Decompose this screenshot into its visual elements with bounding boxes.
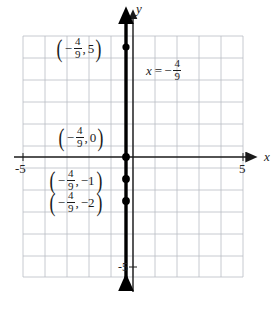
equation-relation: =	[154, 64, 163, 77]
point-label-neg2: ( − 4 9 , −2 )	[48, 190, 103, 214]
point-0-numerator: 4	[76, 125, 84, 136]
point-neg1-numerator: 4	[67, 168, 75, 179]
y-axis-label: y	[136, 2, 142, 15]
point-5-numerator: 4	[74, 36, 82, 47]
point-5-fraction: 4 9	[74, 36, 82, 60]
point-label-5: ( − 4 9 , 5 )	[55, 36, 103, 60]
close-paren-icon: )	[96, 38, 102, 59]
point-0-denominator: 9	[76, 138, 84, 149]
open-paren-icon: (	[58, 127, 64, 148]
equation-lhs: x	[146, 64, 154, 77]
equation-fraction: 4 9	[173, 58, 181, 82]
equation-numerator: 4	[173, 58, 181, 69]
equation-denominator: 9	[173, 71, 181, 82]
close-paren-icon: )	[98, 127, 104, 148]
y-tick-label-neg5: -5	[118, 261, 128, 273]
point-0-y: 0	[90, 131, 97, 144]
point-neg1-y: −1	[81, 174, 95, 187]
point-label-0: ( − 4 9 , 0 )	[57, 125, 105, 149]
point-marker-neg2	[122, 197, 130, 205]
point-neg2-sign: −	[57, 196, 66, 209]
point-neg1-sign: −	[57, 174, 66, 187]
open-paren-icon: (	[49, 192, 55, 213]
point-marker-0	[122, 153, 130, 161]
point-marker-5	[122, 43, 129, 50]
point-neg2-y: −2	[81, 196, 95, 209]
point-0-fraction: 4 9	[76, 125, 84, 149]
point-label-neg1: ( − 4 9 , −1 )	[48, 168, 103, 192]
point-5-sign: −	[64, 42, 73, 55]
equation-label: x = − 4 9	[146, 58, 182, 82]
x-tick-label-5: 5	[239, 162, 246, 175]
point-5-denominator: 9	[74, 49, 82, 60]
equation-sign: −	[163, 64, 172, 77]
point-neg2-numerator: 4	[67, 190, 75, 201]
close-paren-icon: )	[96, 192, 102, 213]
coordinate-plane-svg	[0, 0, 280, 310]
point-neg2-fraction: 4 9	[67, 190, 75, 214]
x-tick-label-neg5: -5	[15, 162, 26, 175]
x-axis-label: x	[264, 150, 270, 163]
point-neg2-denominator: 9	[67, 203, 75, 214]
graph-figure: y x -5 5 -5 x = − 4 9 ( − 4 9 , 5 ) ( −	[0, 0, 280, 310]
point-marker-neg1	[122, 175, 130, 183]
open-paren-icon: (	[56, 38, 62, 59]
point-0-sign: −	[66, 131, 75, 144]
point-5-y: 5	[88, 42, 95, 55]
